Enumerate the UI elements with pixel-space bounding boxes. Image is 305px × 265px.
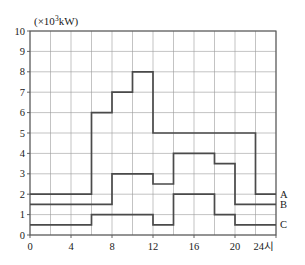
y-tick-label: 9 bbox=[20, 46, 25, 57]
x-tick-label: 12 bbox=[148, 241, 159, 252]
y-axis-unit-label: (×103kW) bbox=[34, 14, 79, 29]
tick-marks bbox=[27, 31, 276, 238]
chart-container: 012345678910 04812162024시 ABC (×103kW) bbox=[0, 0, 305, 265]
x-tick-label: 8 bbox=[109, 241, 114, 252]
power-load-step-chart: 012345678910 04812162024시 ABC (×103kW) bbox=[0, 0, 305, 265]
y-tick-label: 6 bbox=[20, 107, 25, 118]
y-tick-label: 3 bbox=[20, 168, 25, 179]
y-tick-label: 8 bbox=[20, 66, 25, 77]
unit-suffix: kW) bbox=[59, 15, 79, 28]
series-label-b: B bbox=[280, 199, 287, 210]
x-tick-label: 16 bbox=[189, 241, 200, 252]
y-tick-label: 5 bbox=[20, 128, 25, 139]
x-tick-label: 0 bbox=[27, 241, 32, 252]
y-axis-unit-text: (×103kW) bbox=[34, 14, 79, 29]
series-end-labels: ABC bbox=[280, 189, 288, 231]
x-tick-label: 24시 bbox=[254, 241, 275, 252]
x-tick-label: 20 bbox=[230, 241, 241, 252]
x-axis-tick-labels: 04812162024시 bbox=[27, 241, 274, 252]
y-tick-label: 4 bbox=[20, 148, 26, 159]
y-tick-label: 7 bbox=[20, 87, 25, 98]
series-label-c: C bbox=[280, 219, 287, 230]
y-axis-tick-labels: 012345678910 bbox=[15, 26, 26, 241]
y-tick-label: 1 bbox=[20, 209, 25, 220]
y-tick-label: 10 bbox=[15, 26, 26, 37]
unit-prefix: (×10 bbox=[34, 15, 55, 28]
y-tick-label: 2 bbox=[20, 189, 25, 200]
x-tick-label: 4 bbox=[68, 241, 74, 252]
y-tick-label: 0 bbox=[20, 230, 25, 241]
